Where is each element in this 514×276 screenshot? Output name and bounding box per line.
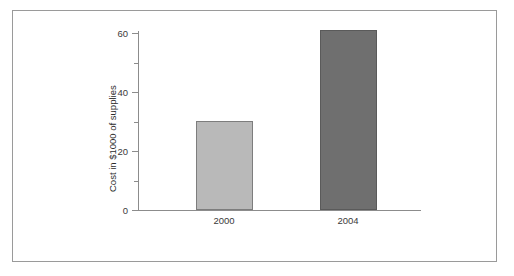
chart-figure: Cost in $1000 of supplies 0 20 40 60 200… — [0, 0, 514, 276]
bar-2004[interactable] — [320, 30, 377, 210]
y-axis-line — [138, 31, 139, 211]
x-tick-label-2004: 2004 — [308, 216, 388, 226]
y-tick-label-60: 60 — [104, 29, 128, 39]
y-tick-label-20: 20 — [104, 147, 128, 157]
x-axis-line — [138, 210, 421, 211]
bar-2000[interactable] — [196, 121, 253, 210]
plot-area: Cost in $1000 of supplies 0 20 40 60 200… — [0, 0, 514, 276]
y-tick-label-0: 0 — [104, 206, 128, 216]
y-axis-title: Cost in $1000 of supplies — [96, 62, 112, 192]
x-tick-label-2000: 2000 — [184, 216, 264, 226]
y-tick-label-40: 40 — [104, 88, 128, 98]
y-axis-title-text: Cost in $1000 of supplies — [108, 85, 118, 192]
